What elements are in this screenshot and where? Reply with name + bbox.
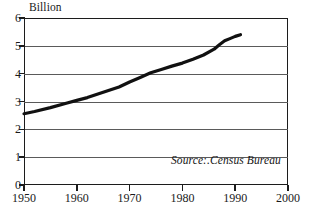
x-axis-labels: 195019601970198019902000 bbox=[0, 191, 313, 211]
y-axis-label: 2 bbox=[5, 122, 21, 137]
source-note: Source:.Census Bureau bbox=[171, 154, 281, 166]
x-axis-label: 1970 bbox=[118, 191, 142, 206]
x-axis-label: 1980 bbox=[170, 191, 194, 206]
y-axis-label: 4 bbox=[5, 66, 21, 81]
x-axis-label: 1960 bbox=[65, 191, 89, 206]
y-axis-label: 3 bbox=[5, 94, 21, 109]
series-polyline bbox=[24, 35, 240, 114]
y-axis-label: 6 bbox=[5, 11, 21, 26]
y-axis-label: 1 bbox=[5, 150, 21, 165]
y-axis-label: 5 bbox=[5, 38, 21, 53]
x-axis-label: 1950 bbox=[12, 191, 36, 206]
population-line-chart: Billion 0123456 195019601970198019902000… bbox=[0, 0, 313, 214]
x-axis-label: 2000 bbox=[276, 191, 300, 206]
y-axis-unit-caption: Billion bbox=[29, 1, 62, 13]
x-axis-label: 1990 bbox=[223, 191, 247, 206]
